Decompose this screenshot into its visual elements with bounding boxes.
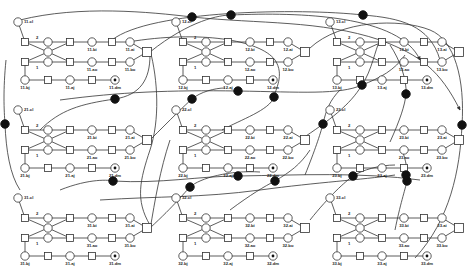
transition-tm[interactable] [143, 48, 152, 57]
place-center[interactable] [44, 224, 52, 232]
place-top[interactable] [44, 38, 52, 46]
transition-t1[interactable] [180, 39, 187, 46]
transition-b1[interactable] [357, 165, 364, 172]
place-cl[interactable] [326, 18, 334, 26]
transition-t6[interactable] [267, 59, 274, 66]
place-top[interactable] [356, 126, 364, 134]
place-ai[interactable] [284, 214, 292, 222]
transition-t2[interactable] [225, 39, 232, 46]
transition-t4[interactable] [180, 59, 187, 66]
place-center[interactable] [44, 136, 52, 144]
place-aj[interactable] [66, 76, 74, 84]
place-bj[interactable] [179, 164, 187, 172]
transition-b2[interactable] [89, 253, 96, 260]
resource-place-r5[interactable] [111, 95, 119, 103]
transition-tm[interactable] [301, 136, 310, 145]
transition-t1[interactable] [334, 127, 341, 134]
place-bi[interactable] [400, 126, 408, 134]
transition-tm[interactable] [301, 48, 310, 57]
place-cl[interactable] [326, 194, 334, 202]
transition-t3[interactable] [267, 215, 274, 222]
transition-b2[interactable] [247, 77, 254, 84]
place-aj[interactable] [224, 164, 232, 172]
place-bo[interactable] [284, 58, 292, 66]
transition-tm[interactable] [143, 136, 152, 145]
place-ai[interactable] [438, 38, 446, 46]
transition-t2[interactable] [379, 39, 386, 46]
transition-t5[interactable] [67, 235, 74, 242]
transition-t2[interactable] [67, 215, 74, 222]
resource-place-r17[interactable] [349, 172, 357, 180]
place-aj[interactable] [378, 252, 386, 260]
transition-t2[interactable] [67, 39, 74, 46]
place-ao[interactable] [88, 58, 96, 66]
place-aj[interactable] [224, 76, 232, 84]
transition-t6[interactable] [109, 147, 116, 154]
place-ai[interactable] [438, 126, 446, 134]
transition-t2[interactable] [379, 127, 386, 134]
place-bottom[interactable] [202, 58, 210, 66]
place-center[interactable] [44, 48, 52, 56]
transition-t4[interactable] [22, 147, 29, 154]
resource-place-r15[interactable] [186, 183, 194, 191]
place-bottom[interactable] [356, 234, 364, 242]
place-bottom[interactable] [44, 146, 52, 154]
place-bo[interactable] [284, 234, 292, 242]
place-cl[interactable] [14, 18, 22, 26]
transition-t3[interactable] [421, 127, 428, 134]
place-bj[interactable] [21, 76, 29, 84]
place-top[interactable] [44, 126, 52, 134]
resource-place-r8[interactable] [1, 120, 9, 128]
transition-t2[interactable] [225, 215, 232, 222]
place-bi[interactable] [88, 38, 96, 46]
place-bo[interactable] [126, 58, 134, 66]
place-top[interactable] [202, 214, 210, 222]
place-bo[interactable] [126, 146, 134, 154]
transition-t3[interactable] [267, 127, 274, 134]
place-ai[interactable] [126, 38, 134, 46]
place-bottom[interactable] [44, 58, 52, 66]
place-bj[interactable] [179, 252, 187, 260]
transition-t4[interactable] [22, 235, 29, 242]
place-ao[interactable] [400, 58, 408, 66]
transition-t6[interactable] [421, 147, 428, 154]
place-bi[interactable] [400, 38, 408, 46]
place-cl[interactable] [172, 18, 180, 26]
transition-t1[interactable] [22, 127, 29, 134]
transition-b2[interactable] [247, 165, 254, 172]
place-top[interactable] [356, 214, 364, 222]
transition-t5[interactable] [67, 59, 74, 66]
resource-place-r2[interactable] [227, 11, 235, 19]
transition-t1[interactable] [22, 39, 29, 46]
resource-place-r11[interactable] [319, 120, 327, 128]
place-ao[interactable] [88, 234, 96, 242]
resource-place-r1[interactable] [188, 13, 196, 21]
resource-place-r10[interactable] [402, 90, 410, 98]
place-center[interactable] [356, 48, 364, 56]
place-center[interactable] [202, 136, 210, 144]
transition-b1[interactable] [203, 253, 210, 260]
transition-t5[interactable] [379, 235, 386, 242]
place-center[interactable] [356, 136, 364, 144]
place-ai[interactable] [284, 38, 292, 46]
place-bj[interactable] [179, 76, 187, 84]
transition-t6[interactable] [109, 235, 116, 242]
transition-t2[interactable] [67, 127, 74, 134]
place-bottom[interactable] [202, 146, 210, 154]
transition-b1[interactable] [45, 77, 52, 84]
place-ao[interactable] [246, 58, 254, 66]
transition-b1[interactable] [357, 253, 364, 260]
transition-t5[interactable] [379, 147, 386, 154]
transition-t5[interactable] [225, 147, 232, 154]
transition-tm[interactable] [455, 224, 464, 233]
transition-t6[interactable] [421, 59, 428, 66]
place-center[interactable] [202, 48, 210, 56]
transition-b2[interactable] [89, 165, 96, 172]
place-ai[interactable] [284, 126, 292, 134]
place-bj[interactable] [21, 252, 29, 260]
transition-t6[interactable] [109, 59, 116, 66]
transition-b2[interactable] [89, 77, 96, 84]
place-bj[interactable] [333, 76, 341, 84]
transition-b1[interactable] [203, 77, 210, 84]
transition-t1[interactable] [180, 215, 187, 222]
